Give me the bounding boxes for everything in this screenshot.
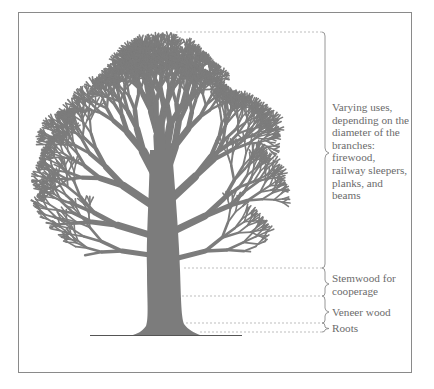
label-branches: Varying uses, depending on the diameter … — [332, 101, 409, 202]
label-roots: Roots — [332, 322, 358, 335]
label-stemwood: Stemwood for cooperage — [332, 272, 396, 297]
braces — [322, 32, 329, 332]
label-veneer: Veneer wood — [332, 306, 391, 319]
